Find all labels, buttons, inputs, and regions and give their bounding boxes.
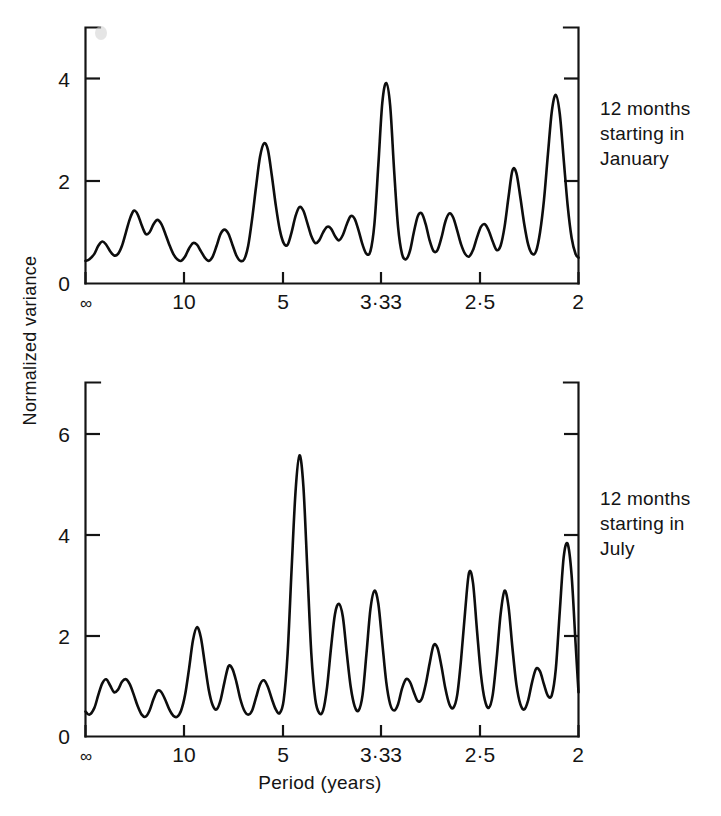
bottom-ylabel-2: 2: [58, 625, 70, 648]
top-xlabel-25: 2·5: [465, 290, 495, 313]
bottom-ylabel-6: 6: [58, 423, 70, 446]
spectrum-curve-july: [86, 455, 579, 717]
top-xlabel-inf: ∞: [80, 294, 92, 313]
figure-container: 4 2 0 ∞ 10 5 3·33 2·5 2: [0, 0, 721, 816]
top-xlabel-10: 10: [172, 290, 195, 313]
bottom-xlabel-25: 2·5: [465, 743, 495, 766]
bottom-xlabel-10: 10: [172, 743, 195, 766]
top-ylabel-0: 0: [58, 272, 70, 295]
top-xlabel-2: 2: [572, 290, 584, 313]
top-xlabel-5: 5: [277, 290, 289, 313]
bottom-xlabel-333: 3·33: [360, 743, 402, 766]
bottom-xlabel-2: 2: [572, 743, 584, 766]
bottom-xlabel-inf: ∞: [80, 747, 92, 766]
bottom-ylabel-4: 4: [58, 524, 70, 547]
top-xlabel-333: 3·33: [360, 290, 402, 313]
top-ylabel-2: 2: [58, 170, 70, 193]
x-axis-title: Period (years): [0, 772, 640, 794]
paper-smudge: [95, 26, 107, 40]
spectrum-curve-january: [86, 83, 579, 261]
top-ylabel-4: 4: [58, 68, 70, 91]
panel-january: 4 2 0 ∞ 10 5 3·33 2·5 2: [58, 26, 584, 313]
bottom-panel-axis-left: [86, 383, 101, 737]
top-panel-axis-right: [564, 28, 579, 284]
annotation-january: 12 months starting in January: [600, 96, 691, 171]
panel-july: 6 4 2 0 ∞ 10 5 3·33 2·5 2: [58, 383, 584, 767]
bottom-ylabel-0: 0: [58, 725, 70, 748]
y-axis-title: Normalized variance: [20, 241, 41, 441]
bottom-xlabel-5: 5: [277, 743, 289, 766]
annotation-july: 12 months starting in July: [600, 486, 691, 561]
